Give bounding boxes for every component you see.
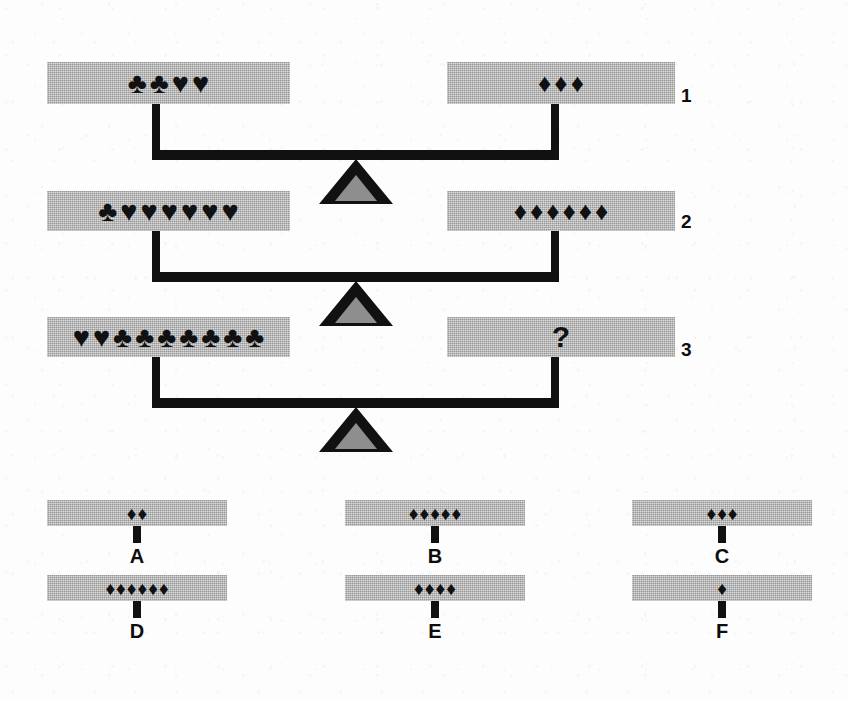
- option-e-contents: ♦♦♦♦: [414, 579, 456, 598]
- diamond-symbol: ♦: [595, 198, 608, 224]
- scale-2-left-pan[interactable]: ♣♥♥♥♥♥♥: [47, 191, 290, 231]
- club-symbol: ♣: [179, 323, 198, 352]
- diamond-symbol: ♦: [116, 579, 126, 598]
- club-symbol: ♣: [245, 323, 264, 352]
- diamond-symbol: ♦: [530, 198, 543, 224]
- diamond-symbol: ♦: [717, 504, 727, 523]
- option-d-stem: [133, 601, 141, 618]
- club-symbol: ♣: [223, 323, 242, 352]
- diamond-symbol: ♦: [538, 70, 551, 96]
- fulcrum-fill: [335, 175, 377, 201]
- club-symbol: ♣: [113, 323, 132, 352]
- heart-symbol: ♥: [201, 197, 218, 226]
- diamond-symbol: ♦: [514, 198, 527, 224]
- fulcrum-fill: [335, 297, 377, 323]
- option-e-pan[interactable]: ♦♦♦♦: [345, 575, 525, 601]
- club-symbol: ♣: [150, 69, 169, 98]
- diamond-symbol: ♦: [105, 579, 115, 598]
- diamond-symbol: ♦: [436, 579, 446, 598]
- option-c-stem: [718, 526, 726, 543]
- diamond-symbol: ♦: [419, 504, 429, 523]
- option-b-letter: B: [425, 546, 445, 566]
- diamond-symbol: ♦: [425, 579, 435, 598]
- option-c-pan[interactable]: ♦♦♦: [632, 500, 812, 526]
- scale-1-right-pan[interactable]: ♦♦♦: [447, 62, 675, 104]
- diamond-symbol: ♦: [430, 504, 440, 523]
- option-c-letter: C: [712, 546, 732, 566]
- scale-1-left-pan-contents: ♣♣♥♥: [128, 69, 210, 98]
- scale-2-right-riser: [551, 231, 559, 277]
- scale-1-right-pan-contents: ♦♦♦: [538, 70, 584, 96]
- option-e-letter: E: [425, 621, 445, 641]
- scale-2-left-riser: [152, 231, 160, 277]
- club-symbol: ♣: [128, 69, 147, 98]
- diamond-symbol: ♦: [571, 70, 584, 96]
- diamond-symbol: ♦: [127, 579, 137, 598]
- diamond-symbol: ♦: [706, 504, 716, 523]
- heart-symbol: ♥: [181, 197, 198, 226]
- diamond-symbol: ♦: [717, 579, 727, 598]
- scale-2-right-pan[interactable]: ♦♦♦♦♦♦: [447, 191, 675, 231]
- heart-symbol: ♥: [120, 197, 137, 226]
- scale-3-left-pan-contents: ♥♥♣♣♣♣♣♣♣: [73, 323, 265, 352]
- heart-symbol: ♥: [73, 323, 90, 352]
- option-a-letter: A: [127, 546, 147, 566]
- heart-symbol: ♥: [161, 197, 178, 226]
- scale-2-right-pan-contents: ♦♦♦♦♦♦: [514, 198, 609, 224]
- scale-1-left-riser: [152, 104, 160, 155]
- club-symbol: ♣: [157, 323, 176, 352]
- scale-2-label: 2: [681, 212, 692, 231]
- club-symbol: ♣: [201, 323, 220, 352]
- scale-2-left-pan-contents: ♣♥♥♥♥♥♥: [98, 197, 238, 226]
- scale-3-right-riser: [551, 357, 559, 403]
- diamond-symbol: ♦: [546, 198, 559, 224]
- scale-3-label: 3: [681, 340, 692, 359]
- heart-symbol: ♥: [192, 69, 209, 98]
- option-f-contents: ♦: [717, 579, 727, 598]
- option-f-letter: F: [712, 621, 732, 641]
- option-a-stem: [133, 526, 141, 543]
- option-d-contents: ♦♦♦♦♦♦: [105, 579, 168, 598]
- scale-3-left-pan[interactable]: ♥♥♣♣♣♣♣♣♣: [47, 317, 290, 357]
- heart-symbol: ♥: [172, 69, 189, 98]
- option-a-contents: ♦♦: [127, 504, 147, 523]
- scale-1-label: 1: [681, 86, 692, 105]
- option-b-stem: [431, 526, 439, 543]
- club-symbol: ♣: [98, 197, 117, 226]
- option-e-stem: [431, 601, 439, 618]
- diamond-symbol: ♦: [148, 579, 158, 598]
- heart-symbol: ♥: [93, 323, 110, 352]
- option-b-contents: ♦♦♦♦♦: [409, 504, 462, 523]
- diamond-symbol: ♦: [138, 504, 148, 523]
- fulcrum-fill: [335, 423, 377, 449]
- scale-1-right-riser: [551, 104, 559, 155]
- diamond-symbol: ♦: [563, 198, 576, 224]
- option-f-pan[interactable]: ♦: [632, 575, 812, 601]
- heart-symbol: ♥: [141, 197, 158, 226]
- scale-3-left-riser: [152, 357, 160, 403]
- unknown-quantity-question-mark: ?: [552, 322, 570, 352]
- diamond-symbol: ♦: [554, 70, 567, 96]
- diamond-symbol: ♦: [452, 504, 462, 523]
- diamond-symbol: ♦: [159, 579, 169, 598]
- option-a-pan[interactable]: ♦♦: [47, 500, 227, 526]
- scale-1-left-pan[interactable]: ♣♣♥♥: [47, 62, 290, 104]
- diamond-symbol: ♦: [728, 504, 738, 523]
- option-b-pan[interactable]: ♦♦♦♦♦: [345, 500, 525, 526]
- diamond-symbol: ♦: [138, 579, 148, 598]
- option-f-stem: [718, 601, 726, 618]
- diamond-symbol: ♦: [441, 504, 451, 523]
- diamond-symbol: ♦: [446, 579, 456, 598]
- club-symbol: ♣: [135, 323, 154, 352]
- diamond-symbol: ♦: [409, 504, 419, 523]
- heart-symbol: ♥: [221, 197, 238, 226]
- diamond-symbol: ♦: [127, 504, 137, 523]
- diamond-symbol: ♦: [414, 579, 424, 598]
- option-d-letter: D: [127, 621, 147, 641]
- diamond-symbol: ♦: [579, 198, 592, 224]
- puzzle-canvas: ♣♣♥♥ ♦♦♦ 1 ♣♥♥♥♥♥♥ ♦♦♦♦♦♦ 2: [0, 0, 848, 701]
- scale-3-right-pan[interactable]: ?: [447, 317, 675, 357]
- option-c-contents: ♦♦♦: [706, 504, 737, 523]
- option-d-pan[interactable]: ♦♦♦♦♦♦: [47, 575, 227, 601]
